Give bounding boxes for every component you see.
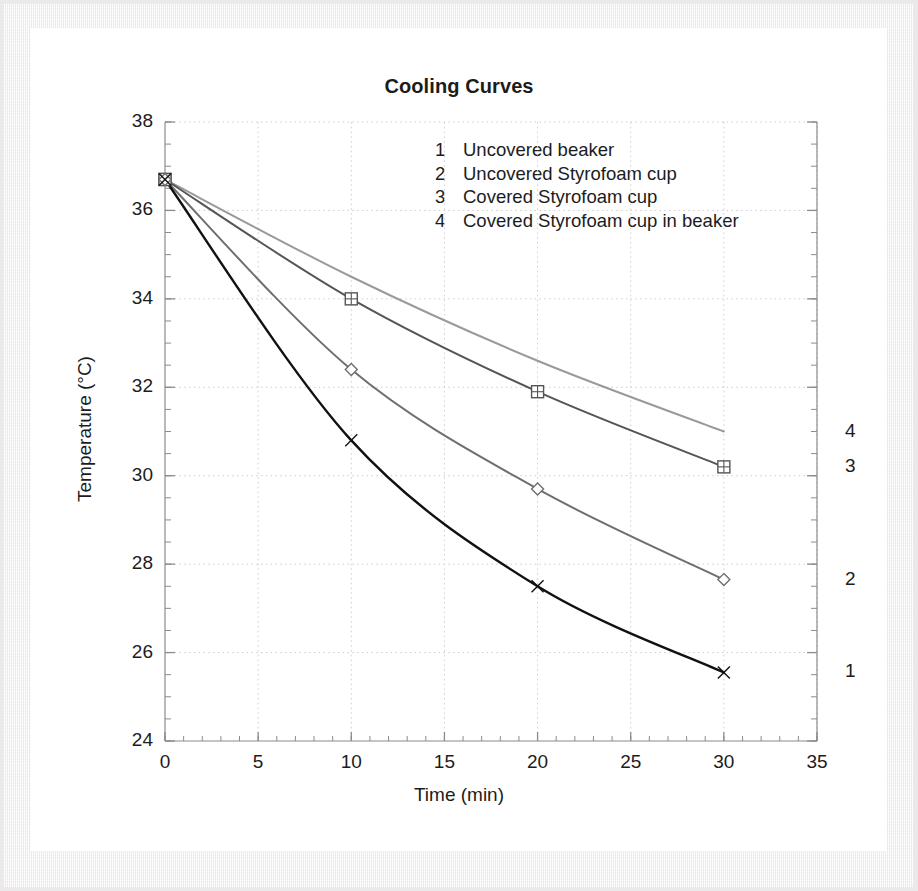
x-tick-label: 20	[508, 751, 568, 773]
x-tick-label: 5	[228, 751, 288, 773]
axis-lines-group	[165, 122, 817, 741]
y-tick-label: 28	[93, 552, 153, 574]
gridlines-group	[165, 122, 817, 741]
curve-number-label: 1	[845, 660, 875, 682]
curve-number-label: 3	[845, 455, 875, 477]
x-tick-label: 15	[414, 751, 474, 773]
major-ticks-group	[165, 122, 817, 741]
figure-card: Cooling Curves Temperature (°C) Time (mi…	[31, 28, 887, 851]
plot-canvas	[31, 28, 887, 851]
minor-ticks-group	[165, 122, 817, 741]
x-tick-label: 25	[601, 751, 661, 773]
x-tick-label: 10	[321, 751, 381, 773]
y-tick-label: 30	[93, 464, 153, 486]
curve-number-label: 4	[845, 420, 875, 442]
y-tick-label: 38	[93, 110, 153, 132]
curve-number-label: 2	[845, 568, 875, 590]
chart-figure: Cooling Curves Temperature (°C) Time (mi…	[31, 28, 887, 851]
x-tick-label: 35	[787, 751, 847, 773]
x-tick-label: 30	[694, 751, 754, 773]
y-tick-label: 32	[93, 375, 153, 397]
y-tick-label: 34	[93, 287, 153, 309]
y-tick-label: 26	[93, 641, 153, 663]
screenshot-root: Cooling Curves Temperature (°C) Time (mi…	[0, 0, 918, 891]
y-tick-label: 24	[93, 729, 153, 751]
x-tick-label: 0	[135, 751, 195, 773]
y-tick-label: 36	[93, 198, 153, 220]
